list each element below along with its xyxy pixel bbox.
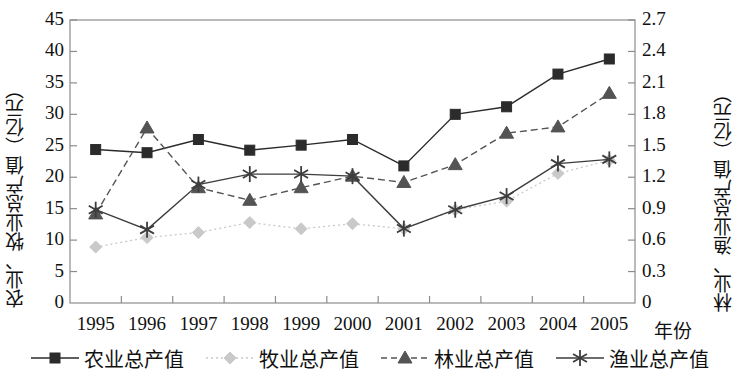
y-axis-right-tick-label: 0.3 [642, 260, 666, 282]
y-axis-left-tick-label: 25 [45, 134, 64, 156]
y-axis-left-tick-label: 30 [45, 102, 64, 124]
legend-marker-diamond-icon [204, 348, 256, 368]
legend-label-3: 渔业总产值 [609, 344, 709, 371]
chart-figure: 农业、牧业总产值（亿元） 林业、渔业总产值（亿元） 年份 05101520253… [0, 0, 738, 371]
y-axis-right-tick-label: 1.8 [642, 102, 666, 124]
data-point-square [91, 145, 101, 155]
legend-item-2[interactable]: 林业总产值 [379, 344, 534, 371]
y-axis-left-tick-label: 20 [45, 165, 64, 187]
legend-item-3[interactable]: 渔业总产值 [554, 344, 709, 371]
y-axis-right-tick-label: 2.4 [642, 39, 666, 61]
data-point-square [399, 161, 409, 171]
y-axis-left-tick-label: 10 [45, 228, 64, 250]
y-axis-left-tick-label: 40 [45, 39, 64, 61]
y-axis-left-tick-label: 0 [55, 291, 65, 313]
y-axis-right-tick-label: 1.2 [642, 165, 666, 187]
plot-border [70, 20, 635, 303]
data-point-triangle [398, 351, 412, 363]
data-point-square [142, 148, 152, 158]
legend-label-1: 牧业总产值 [259, 344, 359, 371]
data-point-square [502, 102, 512, 112]
data-point-square [50, 353, 60, 363]
x-axis-tick-label: 2005 [579, 313, 639, 335]
y-axis-right-tick-label: 0.9 [642, 197, 666, 219]
data-point-square [450, 109, 460, 119]
data-point-square [604, 54, 614, 64]
legend-item-0[interactable]: 农业总产值 [29, 344, 184, 371]
legend-label-2: 林业总产值 [434, 344, 534, 371]
legend-label-0: 农业总产值 [84, 344, 184, 371]
legend-marker-triangle-icon [379, 348, 431, 368]
y-axis-left-tick-label: 5 [55, 260, 65, 282]
data-point-square [296, 140, 306, 150]
y-axis-right-tick-label: 2.1 [642, 71, 666, 93]
data-point-square [348, 134, 358, 144]
y-axis-right-tick-label: 0.6 [642, 228, 666, 250]
data-point-square [245, 145, 255, 155]
plot-frame [70, 20, 635, 303]
legend-item-1[interactable]: 牧业总产值 [204, 344, 359, 371]
data-point-diamond [224, 352, 236, 364]
y-axis-left-tick-label: 15 [45, 197, 64, 219]
y-axis-right-tick-label: 0 [642, 291, 652, 313]
y-axis-right-tick-label: 2.7 [642, 8, 666, 30]
data-point-square [553, 69, 563, 79]
legend-marker-asterisk-icon [554, 348, 606, 368]
legend-marker-square-icon [29, 348, 81, 368]
y-axis-right-tick-label: 1.5 [642, 134, 666, 156]
chart-legend: 农业总产值牧业总产值林业总产值渔业总产值 [0, 345, 738, 371]
data-point-square [193, 134, 203, 144]
y-axis-left-tick-label: 35 [45, 71, 64, 93]
y-axis-left-tick-label: 45 [45, 8, 64, 30]
